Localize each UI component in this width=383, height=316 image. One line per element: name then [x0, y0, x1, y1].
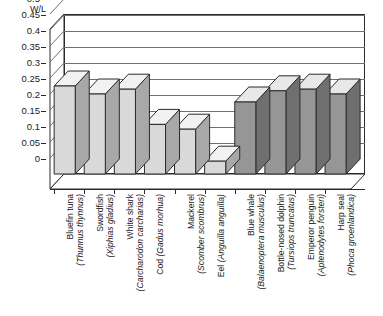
x-axis-label-scientific: (Scomber scombrus) — [196, 194, 206, 312]
y-axis-tick-label: 0.3 — [0, 58, 40, 67]
y-axis-tick-mark — [41, 15, 46, 16]
y-axis-tick-label: 0.2 — [0, 90, 40, 99]
x-axis-label: White shark(Carcharodon carcharias) — [125, 194, 145, 312]
x-axis-label-common: Bottle-nosed dolphin — [276, 194, 286, 312]
y-axis-tick-label: 0.4 — [0, 26, 40, 35]
y-axis-tick-label: 0.1 — [0, 122, 40, 131]
bar — [50, 14, 365, 189]
y-axis-tick-mark — [41, 143, 46, 144]
x-axis-labels: Bluefin tuna(Thunnus thynnus)Swordfish(X… — [50, 194, 365, 314]
y-axis-tick-label: 0.45 — [0, 10, 40, 19]
chart-figure: W/L 0.50.450.40.350.30.250.20.150.10.050… — [0, 0, 383, 316]
y-axis-tick-mark — [41, 111, 46, 112]
x-axis-label: Mackerel(Scomber scombrus) — [186, 194, 206, 312]
x-axis-label: Blue whale(Balaenoptera musculus) — [246, 194, 266, 312]
x-axis-label: Emperor penguin(Aptenodytes forsteri) — [306, 194, 326, 312]
gridline-depth-connector — [50, 0, 64, 14]
x-axis-label-scientific: (Aptenodytes forsteri) — [316, 194, 326, 312]
y-axis-tick-mark — [41, 79, 46, 80]
x-axis-label-common: Eel — [216, 262, 226, 277]
y-axis-tick-mark — [41, 159, 46, 160]
x-axis-label-common: White shark — [125, 194, 135, 312]
x-axis-line — [50, 189, 365, 190]
x-axis-label-common: Mackerel — [186, 194, 196, 312]
x-axis-label: Eel (Anguilla anguilla) — [216, 194, 226, 312]
x-axis-label: Bluefin tuna(Thunnus thynnus) — [65, 194, 85, 312]
y-axis-tick-mark — [41, 95, 46, 96]
x-axis-label: Bottle-nosed dolphin(Tursiops truncatus) — [276, 194, 296, 312]
x-axis-label: Cod (Gadus morhua) — [155, 194, 165, 312]
x-axis-label-scientific: (Xiphias gladius) — [105, 194, 115, 312]
y-axis-tick-label: 0.5 — [0, 0, 40, 3]
y-axis-tick-labels: 0.50.450.40.350.30.250.20.150.10.050 — [0, 0, 40, 200]
x-axis-label-scientific: (Phoca groenlandica) — [346, 194, 356, 312]
x-axis-label-scientific: (Balaenoptera musculus) — [256, 194, 266, 312]
x-axis-label-common: Emperor penguin — [306, 194, 316, 312]
x-axis-label-common: Cod — [155, 257, 165, 275]
plot-area — [50, 14, 365, 189]
bars-group — [50, 14, 365, 189]
y-axis-tick-mark — [41, 63, 46, 64]
bar-side-face — [75, 71, 89, 174]
x-axis-label-common: Blue whale — [246, 194, 256, 312]
x-axis-label: Swordfish(Xiphias gladius) — [95, 194, 115, 312]
y-axis-tick-label: 0.05 — [0, 138, 40, 147]
y-axis-tick-mark — [41, 47, 46, 48]
bar-front-face — [54, 86, 75, 174]
y-axis-tick-label: 0.25 — [0, 74, 40, 83]
x-axis-label-common: Harp seal — [336, 194, 346, 312]
y-axis-tick-mark — [41, 127, 46, 128]
x-axis-label-scientific: (Thunnus thynnus) — [75, 194, 85, 312]
x-axis-label-common: Swordfish — [95, 194, 105, 312]
y-axis-tick-mark — [41, 31, 46, 32]
y-axis-tick-label: 0 — [0, 154, 40, 163]
x-axis-label-scientific: (Tursiops truncatus) — [286, 194, 296, 312]
x-axis-label-common: Bluefin tuna — [65, 194, 75, 312]
x-axis-label-scientific: (Gadus morhua) — [155, 194, 165, 257]
y-axis-tick-label: 0.35 — [0, 42, 40, 51]
y-axis-tick-label: 0.15 — [0, 106, 40, 115]
x-axis-label: Harp seal(Phoca groenlandica) — [336, 194, 356, 312]
x-axis-label-scientific: (Anguilla anguilla) — [216, 194, 226, 262]
x-axis-label-scientific: (Carcharodon carcharias) — [136, 194, 146, 312]
